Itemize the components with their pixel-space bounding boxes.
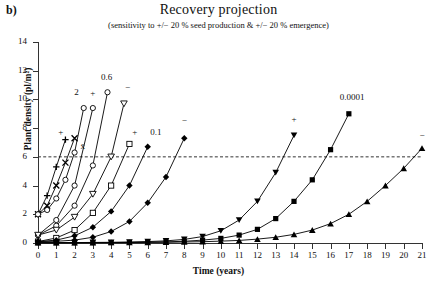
data-point-marker	[44, 192, 50, 198]
annotation-0-0001-mean: 0.0001	[340, 92, 358, 102]
data-point-marker	[90, 163, 95, 168]
data-point-marker	[54, 217, 59, 222]
data-point-marker	[90, 105, 95, 110]
data-point-marker	[309, 227, 316, 233]
series-line	[38, 114, 349, 243]
data-point-marker	[45, 207, 50, 212]
annotation-0-6-mean: 0.6	[98, 72, 116, 82]
series-0-0001-mean	[35, 111, 351, 245]
series-2-mean	[35, 135, 78, 217]
data-point-marker	[105, 90, 110, 95]
data-point-marker	[108, 228, 114, 234]
data-point-marker	[291, 133, 298, 139]
data-point-marker	[72, 227, 77, 232]
figure-panel: b) Recovery projection (sensitivity to +…	[0, 0, 437, 282]
data-point-marker	[163, 174, 169, 180]
data-point-marker	[181, 135, 187, 141]
series-2-	[35, 105, 86, 216]
annotation-0-1-: −	[175, 115, 193, 125]
annotation-0-0001-: +	[285, 114, 303, 124]
data-point-marker	[62, 160, 68, 166]
annotation-0-0001-: −	[413, 130, 431, 140]
series-2-	[35, 136, 69, 217]
series-0-6-	[35, 105, 95, 237]
series-line	[38, 140, 65, 215]
annotation-0-6-: +	[84, 88, 102, 98]
series-line	[38, 144, 129, 242]
data-point-marker	[54, 196, 59, 201]
annotation-0-1-: +	[126, 127, 144, 137]
data-point-marker	[218, 228, 225, 234]
data-point-marker	[272, 170, 279, 176]
data-point-marker	[291, 199, 296, 204]
data-point-marker	[81, 105, 86, 110]
data-point-marker	[90, 191, 97, 197]
data-point-marker	[109, 183, 114, 188]
data-point-marker	[35, 212, 40, 217]
series-layer	[35, 90, 426, 246]
data-point-marker	[236, 217, 243, 223]
data-point-marker	[327, 221, 334, 227]
data-point-marker	[72, 183, 77, 188]
series-line	[38, 108, 84, 214]
annotation-0-6-: −	[119, 82, 137, 92]
data-point-marker	[121, 101, 128, 107]
data-point-marker	[328, 147, 333, 152]
data-point-marker	[62, 136, 68, 142]
data-point-marker	[145, 144, 151, 150]
data-point-marker	[53, 227, 60, 233]
data-point-marker	[53, 183, 59, 189]
data-point-marker	[310, 177, 315, 182]
data-point-marker	[419, 145, 426, 151]
data-point-marker	[63, 177, 68, 182]
series-line	[38, 148, 422, 242]
data-point-marker	[255, 227, 260, 232]
data-point-marker	[127, 141, 132, 146]
annotation-2-: 2	[67, 87, 85, 97]
plot-canvas	[0, 0, 437, 282]
data-point-marker	[90, 210, 95, 215]
annotation-2-mean: x̄	[74, 141, 92, 151]
data-point-marker	[53, 164, 59, 170]
annotation-0-1-mean: 0.1	[147, 127, 165, 137]
data-point-marker	[346, 111, 351, 116]
data-point-marker	[90, 234, 96, 240]
data-point-marker	[237, 233, 242, 238]
annotation-2-: +	[52, 127, 70, 137]
data-point-marker	[126, 182, 132, 188]
data-point-marker	[72, 203, 77, 208]
data-point-marker	[273, 216, 278, 221]
series-line	[38, 92, 107, 235]
